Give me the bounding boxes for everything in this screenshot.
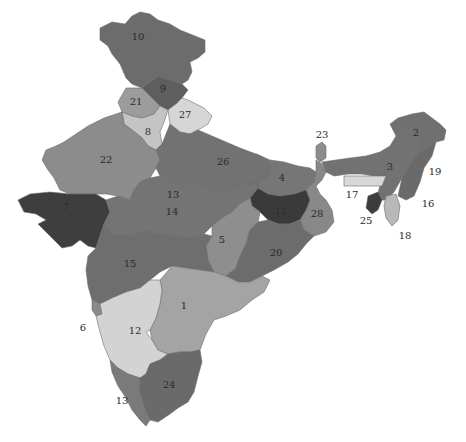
region-label-11: 11 bbox=[275, 205, 288, 216]
region-label-13: 13 bbox=[167, 189, 180, 200]
region-label-26: 26 bbox=[217, 156, 230, 167]
region-label-27: 27 bbox=[179, 109, 192, 120]
region-label-4: 4 bbox=[279, 172, 285, 183]
region-label-7: 7 bbox=[63, 201, 69, 212]
region-label-13: 13 bbox=[116, 395, 129, 406]
region-label-10: 10 bbox=[132, 31, 145, 42]
region-label-21: 21 bbox=[130, 96, 143, 107]
region-23[interactable] bbox=[316, 142, 326, 162]
region-label-5: 5 bbox=[219, 234, 225, 245]
region-17[interactable] bbox=[344, 176, 386, 186]
region-10[interactable] bbox=[100, 12, 205, 88]
region-label-24: 24 bbox=[163, 379, 176, 390]
region-label-28: 28 bbox=[311, 208, 324, 219]
region-label-23: 23 bbox=[316, 129, 329, 140]
region-label-14: 14 bbox=[166, 206, 179, 217]
region-label-12: 12 bbox=[129, 325, 142, 336]
region-label-25: 25 bbox=[360, 215, 373, 226]
region-25[interactable] bbox=[366, 192, 382, 214]
india-state-map: 1092127822262323194171371411281625185152… bbox=[0, 0, 466, 442]
region-label-9: 9 bbox=[160, 83, 166, 94]
region-label-3: 3 bbox=[387, 161, 393, 172]
region-label-8: 8 bbox=[145, 126, 151, 137]
region-18[interactable] bbox=[384, 194, 400, 226]
region-label-1: 1 bbox=[181, 300, 187, 311]
region-label-20: 20 bbox=[270, 247, 283, 258]
region-label-2: 2 bbox=[413, 127, 419, 138]
region-26[interactable] bbox=[156, 124, 272, 194]
region-label-15: 15 bbox=[124, 258, 137, 269]
region-label-22: 22 bbox=[100, 154, 113, 165]
region-label-19: 19 bbox=[429, 166, 442, 177]
region-label-18: 18 bbox=[399, 230, 412, 241]
region-label-6: 6 bbox=[80, 322, 86, 333]
region-label-17: 17 bbox=[346, 189, 359, 200]
region-label-16: 16 bbox=[422, 198, 435, 209]
